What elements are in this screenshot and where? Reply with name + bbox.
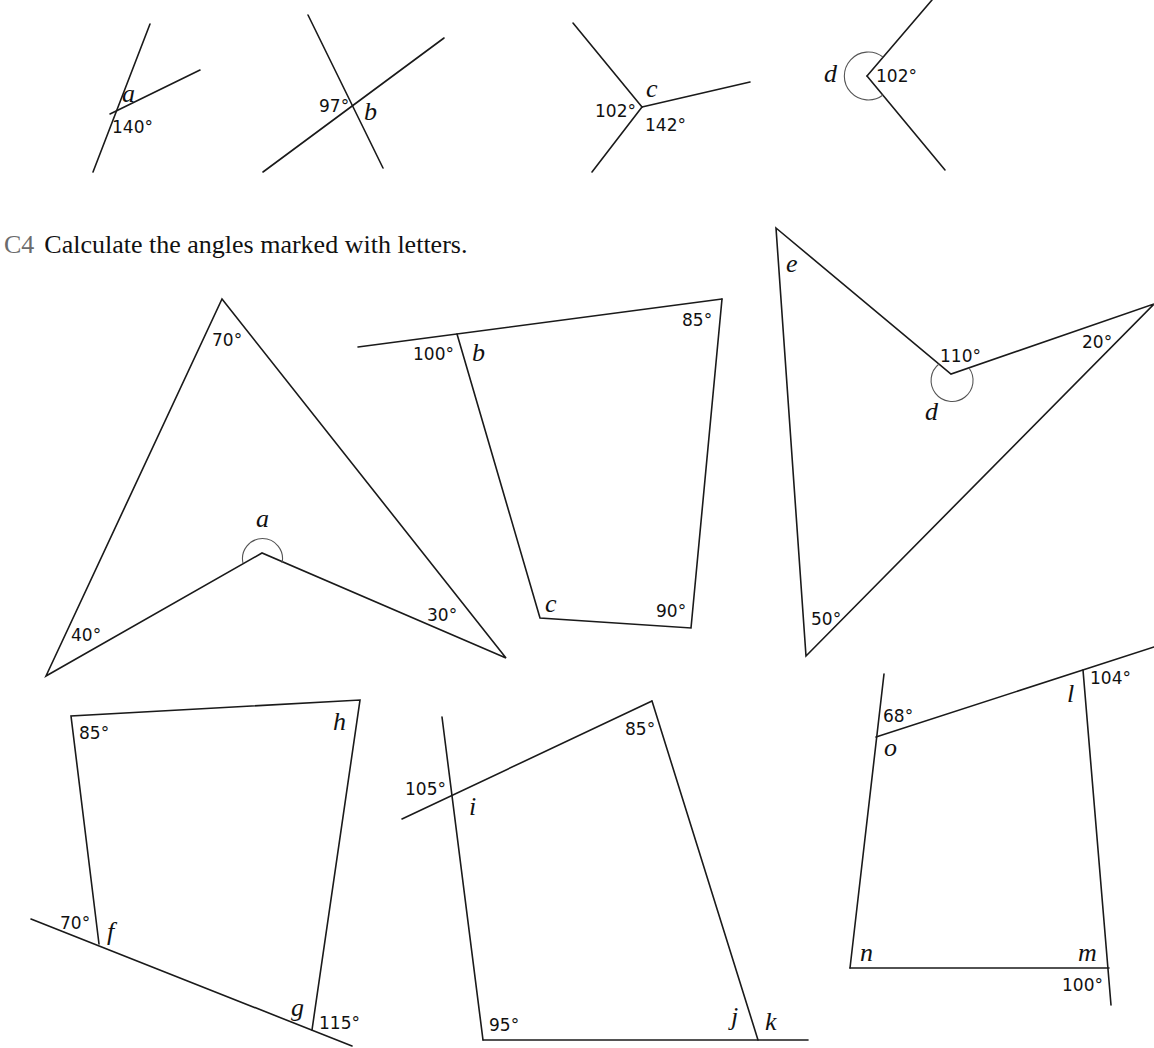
given-angle-label: 115° xyxy=(319,1013,360,1033)
shape-arrowhead-de: e d 110° 20° 50° xyxy=(776,228,1154,656)
unknown-label-j: j xyxy=(728,1002,738,1031)
polygon xyxy=(776,228,1154,656)
given-angle-label: 95° xyxy=(489,1015,519,1035)
unknown-label-l: l xyxy=(1067,679,1074,708)
line xyxy=(642,82,750,107)
figure-angle-b: 97° b xyxy=(263,15,444,172)
polyline xyxy=(457,299,722,628)
given-angle-label: 50° xyxy=(811,609,841,629)
given-angle-label: 90° xyxy=(656,601,686,621)
shape-quad-bc: b c 100° 85° 90° xyxy=(358,299,722,628)
unknown-label-f: f xyxy=(107,917,118,946)
unknown-label-b: b xyxy=(472,338,485,367)
given-angle-label: 40° xyxy=(71,625,101,645)
line xyxy=(652,701,758,1040)
shape-quad-fgh: 85° h 70° f g 115° xyxy=(31,700,360,1046)
given-angle-label: 70° xyxy=(60,913,90,933)
line xyxy=(402,701,652,819)
unknown-label-i: i xyxy=(469,792,476,821)
line xyxy=(867,76,945,170)
given-angle-label: 68° xyxy=(883,706,913,726)
unknown-label-o: o xyxy=(884,733,897,762)
given-angle-label: 110° xyxy=(940,346,981,366)
given-angle-label: 85° xyxy=(79,723,109,743)
line xyxy=(867,0,932,76)
line xyxy=(850,674,884,968)
line xyxy=(442,717,483,1040)
unknown-label-c: c xyxy=(646,74,658,103)
unknown-label-c: c xyxy=(545,589,557,618)
line xyxy=(263,38,444,172)
line xyxy=(358,299,722,347)
line xyxy=(876,647,1154,737)
unknown-label-b: b xyxy=(364,97,377,126)
given-angle-label: 20° xyxy=(1082,332,1112,352)
given-angle-label: 85° xyxy=(625,719,655,739)
figure-angle-a: a 140° xyxy=(93,24,200,172)
unknown-label-a: a xyxy=(256,504,269,533)
shape-quad-lmno: 104° l 68° o n m 100° xyxy=(850,647,1154,1005)
given-angle-label: 102° xyxy=(595,101,636,121)
unknown-label-h: h xyxy=(333,707,346,736)
given-angle-label: 85° xyxy=(682,310,712,330)
given-angle-label: 140° xyxy=(112,117,153,137)
figure-angle-d: d 102° xyxy=(824,0,945,170)
figure-angle-c: c 102° 142° xyxy=(573,23,750,172)
polyline xyxy=(71,700,360,1030)
line xyxy=(573,23,642,107)
given-angle-label: 105° xyxy=(405,779,446,799)
unknown-label-m: m xyxy=(1078,938,1097,967)
unknown-label-d: d xyxy=(824,59,838,88)
line xyxy=(31,919,352,1046)
unknown-label-n: n xyxy=(860,938,873,967)
given-angle-label: 70° xyxy=(212,330,242,350)
given-angle-label: 100° xyxy=(413,344,454,364)
shape-quad-ijk: 105° i 85° 95° j k xyxy=(402,701,808,1040)
geometry-figures: a 140° 97° b c 102° 142° d 102° a 70° 40… xyxy=(0,0,1154,1048)
reflex-angle-arc xyxy=(931,364,973,401)
given-angle-label: 104° xyxy=(1090,668,1131,688)
unknown-label-k: k xyxy=(765,1007,777,1036)
unknown-label-a: a xyxy=(122,79,135,108)
given-angle-label: 30° xyxy=(427,605,457,625)
given-angle-label: 102° xyxy=(876,66,917,86)
given-angle-label: 142° xyxy=(645,115,686,135)
given-angle-label: 97° xyxy=(319,96,349,116)
unknown-label-g: g xyxy=(291,993,304,1022)
given-angle-label: 100° xyxy=(1062,975,1103,995)
unknown-label-d: d xyxy=(925,397,939,426)
unknown-label-e: e xyxy=(786,249,798,278)
